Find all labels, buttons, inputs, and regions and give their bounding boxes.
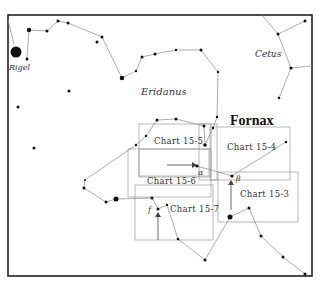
label-beta: β	[235, 174, 241, 183]
arrowhead-icon	[228, 180, 234, 185]
label-f: f	[147, 205, 153, 214]
label-chart-15-6: Chart 15-6	[147, 176, 196, 186]
star-f	[157, 208, 160, 211]
star-rigel	[11, 47, 22, 58]
label-chart-15-4: Chart 15-4	[227, 142, 276, 152]
label-cetus: Cetus	[255, 49, 282, 59]
label-chart-15-3: Chart 15-3	[240, 189, 289, 199]
pointer-arrows	[155, 162, 234, 240]
label-eridanus: Eridanus	[140, 86, 187, 97]
label-alpha: α	[198, 168, 204, 177]
star-beta	[230, 174, 233, 177]
arrowhead-icon	[155, 212, 161, 217]
label-chart-15-7: Chart 15-7	[170, 204, 219, 214]
label-rigel: Rigel	[8, 63, 30, 72]
star-chart: Rigel Eridanus Cetus Fornax Chart 15-5 C…	[0, 0, 321, 285]
label-fornax: Fornax	[230, 113, 274, 128]
label-chart-15-5: Chart 15-5	[154, 136, 203, 146]
